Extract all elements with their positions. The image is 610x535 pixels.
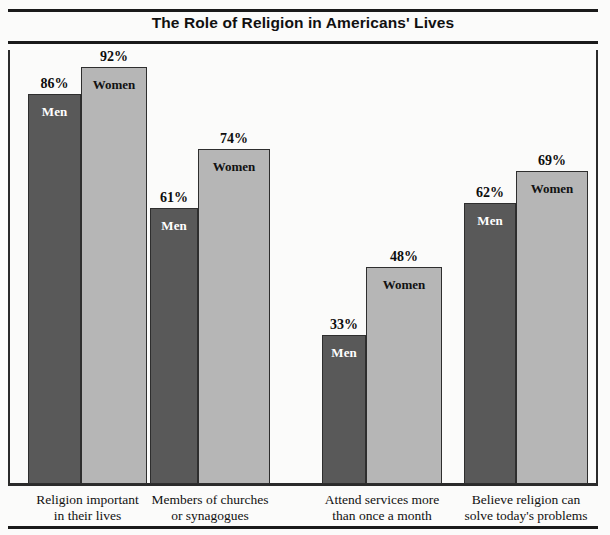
chart-title: The Role of Religion in Americans' Lives: [8, 14, 598, 32]
bar-value-label: 86%: [23, 76, 86, 92]
caption-line-2: or synagogues: [132, 508, 288, 524]
bar-series-label: Women: [199, 159, 269, 175]
caption-line-2: solve today's problems: [446, 508, 606, 524]
caption-line-1: Members of churches: [132, 492, 288, 508]
bar-series-label: Women: [82, 77, 146, 93]
chart-figure: The Role of Religion in Americans' Lives…: [0, 0, 610, 535]
bar-value-label: 61%: [145, 190, 203, 206]
bar-women-group-4: 69%Women: [516, 171, 588, 484]
title-bottom-divider: [8, 41, 598, 44]
bar-series-label: Men: [151, 218, 197, 234]
bar-men-group-1: 86%Men: [28, 94, 81, 484]
bar-series-label: Women: [367, 277, 441, 293]
bar-series-label: Men: [465, 213, 515, 229]
bar-value-label: 92%: [76, 49, 152, 65]
category-caption-3: Attend services morethan once a month: [304, 492, 460, 524]
bar-women-group-2: 74%Women: [198, 149, 270, 484]
bar-value-label: 48%: [361, 249, 447, 265]
title-top-divider: [8, 9, 598, 12]
bar-value-label: 62%: [459, 185, 521, 201]
figure-bottom-divider: [8, 526, 598, 529]
bar-value-label: 74%: [193, 131, 275, 147]
bar-women-group-1: 92%Women: [81, 67, 147, 484]
caption-line-2: than once a month: [304, 508, 460, 524]
bar-series-label: Men: [29, 104, 80, 120]
bar-value-label: 69%: [511, 153, 593, 169]
bar-series-label: Men: [323, 345, 365, 361]
bar-men-group-4: 62%Men: [464, 203, 516, 484]
category-caption-2: Members of churchesor synagogues: [132, 492, 288, 524]
caption-line-1: Believe religion can: [446, 492, 606, 508]
bar-men-group-3: 33%Men: [322, 335, 366, 484]
bar-value-label: 33%: [317, 317, 371, 333]
category-caption-4: Believe religion cansolve today's proble…: [446, 492, 606, 524]
caption-line-1: Attend services more: [304, 492, 460, 508]
bar-women-group-3: 48%Women: [366, 267, 442, 484]
bar-men-group-2: 61%Men: [150, 208, 198, 484]
bar-series-label: Women: [517, 181, 587, 197]
